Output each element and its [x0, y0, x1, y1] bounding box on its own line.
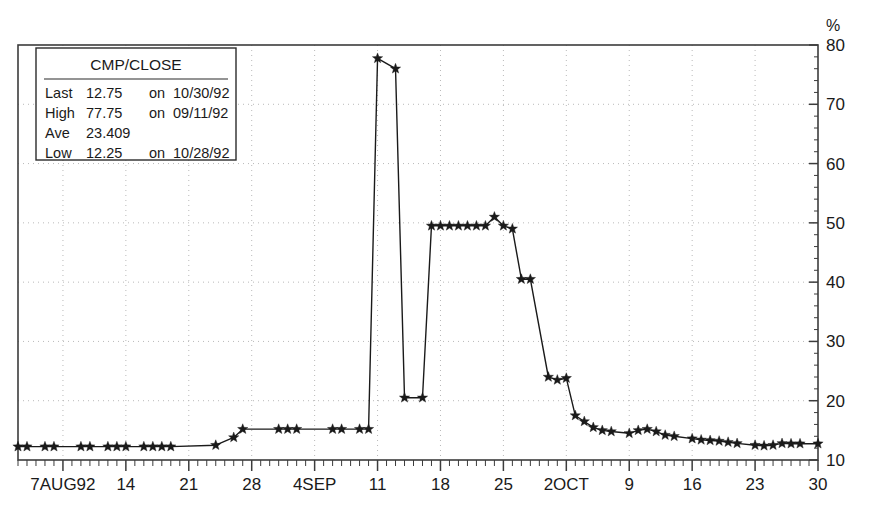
legend-row-value: 12.75 [86, 85, 122, 101]
xtick-label: 14 [116, 475, 135, 494]
data-point-marker [274, 424, 284, 434]
data-point-marker [148, 441, 158, 451]
data-point-marker [354, 424, 364, 434]
legend-title: CMP/CLOSE [90, 56, 181, 73]
data-point-marker [516, 274, 526, 284]
price-chart: 1020304050607080%7AUG921421284SEP1118252… [0, 0, 870, 511]
legend-row-value: 23.409 [86, 125, 130, 141]
data-point-marker [139, 441, 149, 451]
ytick-label: 20 [826, 392, 845, 411]
axis-title-percent: % [826, 17, 840, 34]
xtick-label: 11 [369, 475, 387, 494]
data-point-marker [795, 438, 805, 448]
xtick-label: 23 [746, 475, 765, 494]
data-point-marker [642, 424, 652, 434]
ytick-label: 30 [826, 332, 845, 351]
legend-row-value: 77.75 [86, 105, 122, 121]
data-point-marker [696, 434, 706, 444]
ytick-label: 60 [826, 155, 845, 174]
xtick-label: 30 [809, 475, 828, 494]
data-point-marker [121, 441, 131, 451]
xtick-label: 16 [683, 475, 702, 494]
data-point-marker [462, 220, 472, 230]
data-point-marker [40, 441, 50, 451]
legend-row-date: 10/30/92 [173, 85, 229, 101]
legend-row-on: on [149, 105, 165, 121]
data-point-marker [292, 424, 302, 434]
data-point-marker [588, 422, 598, 432]
ytick-label: 70 [826, 95, 845, 114]
data-point-marker [435, 220, 445, 230]
legend-row-date: 09/11/92 [173, 105, 228, 121]
xtick-label: 18 [431, 475, 450, 494]
legend-row-on: on [149, 145, 165, 161]
data-point-marker [606, 426, 616, 436]
xtick-label: 9 [625, 475, 634, 494]
chart-container: 1020304050607080%7AUG921421284SEP1118252… [0, 0, 870, 511]
ytick-label: 10 [826, 451, 845, 470]
xtick-label: 25 [494, 475, 513, 494]
legend-row-label: Low [45, 145, 72, 161]
xtick-label: 7AUG92 [30, 475, 95, 494]
data-point-marker [157, 441, 167, 451]
legend-row-on: on [149, 85, 165, 101]
xtick-label: 21 [179, 475, 198, 494]
data-point-marker [624, 428, 634, 438]
data-point-marker [651, 426, 661, 436]
data-point-marker [363, 424, 373, 434]
data-point-marker [85, 441, 95, 451]
data-point-marker [76, 441, 86, 451]
data-point-marker [705, 435, 715, 445]
legend-row-label: Ave [45, 125, 70, 141]
data-point-marker [543, 372, 553, 382]
legend-row-value: 12.25 [86, 145, 122, 161]
data-point-marker [444, 220, 454, 230]
data-point-marker [732, 438, 742, 448]
data-point-marker [103, 441, 113, 451]
data-point-marker [786, 438, 796, 448]
data-point-marker [211, 440, 221, 450]
data-point-marker [768, 440, 778, 450]
xtick-label: 28 [242, 475, 261, 494]
data-point-marker [166, 441, 176, 451]
xtick-label: 2OCT [544, 475, 589, 494]
legend-row-label: High [45, 105, 75, 121]
data-point-marker [669, 431, 679, 441]
ytick-label: 40 [826, 273, 845, 292]
xtick-label: 4SEP [293, 475, 336, 494]
ytick-label: 80 [826, 36, 845, 55]
data-point-marker [283, 424, 293, 434]
data-point-marker [327, 424, 337, 434]
legend-row-label: Last [45, 85, 72, 101]
data-point-marker [633, 425, 643, 435]
data-point-marker [336, 424, 346, 434]
data-point-marker [750, 440, 760, 450]
data-point-marker [552, 375, 562, 385]
data-point-marker [777, 438, 787, 448]
data-point-marker [112, 441, 122, 451]
data-point-marker [453, 220, 463, 230]
data-point-marker [759, 440, 769, 450]
data-point-marker [471, 220, 481, 230]
ytick-label: 50 [826, 214, 845, 233]
legend-row-date: 10/28/92 [173, 145, 229, 161]
data-point-marker [49, 441, 59, 451]
data-point-marker [22, 441, 32, 451]
